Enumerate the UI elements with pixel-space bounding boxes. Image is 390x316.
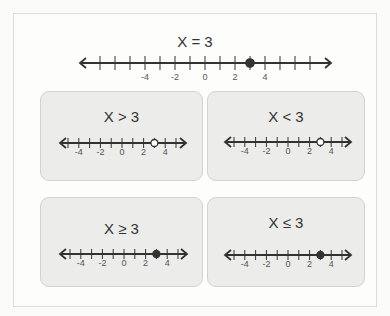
card-number-lines: -4-2024-4-2024-4-2024-4-2024	[0, 0, 390, 316]
tick-label: 4	[329, 259, 334, 269]
number-line: -4-2024	[60, 138, 186, 157]
tick-label: 0	[285, 146, 290, 156]
tick-label: 2	[307, 146, 312, 156]
tick-label: 2	[307, 259, 312, 269]
tick-label: -2	[262, 259, 270, 269]
tick-label: -2	[96, 147, 104, 157]
tick-label: -4	[241, 259, 249, 269]
tick-label: -4	[241, 146, 249, 156]
tick-label: 0	[285, 259, 290, 269]
closed-point-icon	[317, 252, 324, 259]
tick-label: 4	[165, 258, 170, 268]
tick-label: -4	[75, 147, 83, 157]
tick-label: 0	[119, 147, 124, 157]
tick-label: 2	[141, 147, 146, 157]
tick-label: 0	[121, 258, 126, 268]
tick-label: -2	[98, 258, 106, 268]
number-line: -4-2024	[225, 137, 351, 156]
tick-label: 4	[329, 146, 334, 156]
closed-point-icon	[153, 251, 160, 258]
tick-label: -4	[77, 258, 85, 268]
open-point-icon	[317, 139, 324, 146]
tick-label: -2	[262, 146, 270, 156]
tick-label: 4	[163, 147, 168, 157]
number-line: -4-2024	[225, 250, 351, 269]
number-line: -4-2024	[60, 249, 187, 268]
open-point-icon	[151, 140, 158, 147]
tick-label: 2	[143, 258, 148, 268]
